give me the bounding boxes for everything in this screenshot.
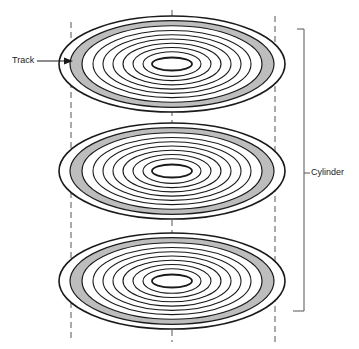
disk-diagram — [0, 0, 359, 349]
highlighted-track-inner — [82, 133, 262, 210]
cylinder-bracket — [293, 29, 310, 311]
cylinder-label: Cylinder — [311, 168, 344, 177]
bottom-platter — [59, 233, 285, 329]
top-platter — [59, 16, 285, 112]
track-label: Track — [12, 56, 34, 65]
highlighted-track-inner — [82, 243, 262, 320]
middle-platter — [59, 123, 285, 219]
highlighted-track-inner — [82, 26, 262, 103]
